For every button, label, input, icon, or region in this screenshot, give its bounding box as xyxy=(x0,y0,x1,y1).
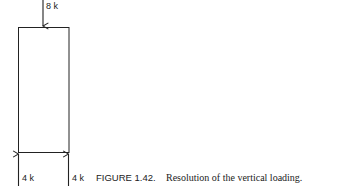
figure-label: FIGURE 1.42. xyxy=(96,172,156,183)
top-load-label: 8 k xyxy=(46,1,59,11)
left-reaction-label: 4 k xyxy=(22,173,35,183)
figure-caption: Resolution of the vertical loading. xyxy=(166,172,302,183)
right-reaction-label: 4 k xyxy=(72,173,85,183)
diagram-canvas: 8 k 4 k 4 k FIGURE 1.42. Resolution of t… xyxy=(0,0,339,187)
member-rectangle xyxy=(19,28,70,153)
